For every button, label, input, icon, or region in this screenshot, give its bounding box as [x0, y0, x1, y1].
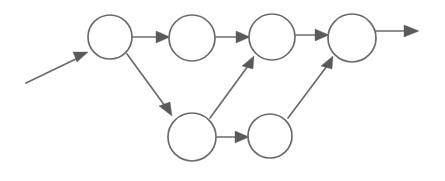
edge-n5-to-n3: [210, 56, 254, 118]
graph-node-n2[interactable]: [169, 15, 215, 61]
node-circle[interactable]: [248, 114, 292, 158]
edge-n1-to-n2: [133, 31, 170, 43]
edge-n6-to-n4: [288, 56, 333, 118]
edge-n3-to-n4: [296, 29, 329, 41]
node-circle[interactable]: [168, 113, 216, 161]
arrowhead-icon: [159, 102, 172, 116]
graph-node-n5[interactable]: [168, 113, 216, 161]
edge-n4-to-exit: [376, 25, 419, 37]
arrowhead-icon: [242, 56, 254, 69]
edge-line: [127, 54, 165, 106]
directed-graph: [0, 0, 445, 181]
arrowhead-icon: [236, 31, 250, 43]
node-circle[interactable]: [249, 14, 295, 60]
edge-line: [26, 57, 80, 83]
arrowhead-icon: [321, 56, 333, 69]
edge-n2-to-n3: [216, 31, 250, 43]
diagram-canvas: [0, 0, 445, 181]
graph-node-n3[interactable]: [249, 14, 295, 60]
arrowhead-icon: [235, 131, 249, 143]
edge-line: [288, 66, 327, 118]
edge-line: [210, 66, 248, 118]
edge-n5-to-n6: [217, 131, 249, 143]
arrowhead-icon: [404, 25, 419, 37]
node-circle[interactable]: [88, 15, 132, 59]
arrowhead-icon: [156, 31, 170, 43]
arrowhead-icon: [315, 29, 329, 41]
graph-node-n6[interactable]: [248, 114, 292, 158]
graph-node-n4[interactable]: [328, 14, 376, 62]
edge-n1-to-n5: [127, 54, 172, 116]
arrowhead-icon: [73, 52, 88, 62]
edge-entry-to-n1: [26, 52, 88, 83]
node-circle[interactable]: [328, 14, 376, 62]
graph-node-n1[interactable]: [88, 15, 132, 59]
node-circle[interactable]: [169, 15, 215, 61]
